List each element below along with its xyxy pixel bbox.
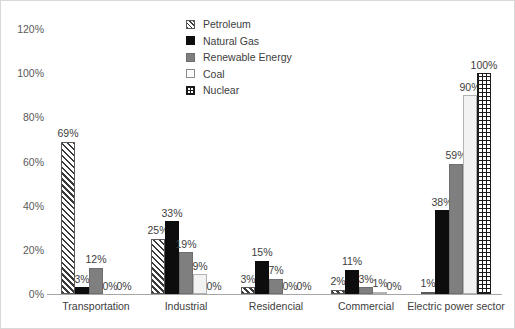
bar-value-label: 2% — [330, 276, 345, 287]
bar-group: 1%38%59%90%100%Electric power sector — [421, 29, 491, 294]
bar[interactable] — [241, 287, 255, 294]
bar-slot: 38% — [435, 29, 449, 294]
bar[interactable] — [421, 292, 435, 294]
legend-item[interactable]: Renewable Energy — [186, 49, 336, 66]
legend-item-label: Natural Gas — [203, 35, 259, 47]
bar[interactable] — [449, 164, 463, 294]
bar[interactable] — [89, 268, 103, 295]
y-axis: 120%100%80%60%40%20%0% — [0, 0, 44, 329]
bar[interactable] — [179, 252, 193, 294]
bar[interactable] — [193, 274, 207, 294]
bar-slot: 12% — [89, 29, 103, 294]
bar[interactable] — [269, 279, 283, 294]
bar-group-bars: 1%38%59%90%100% — [421, 29, 491, 294]
bar-slot: 3% — [359, 29, 373, 294]
legend-item[interactable]: Natural Gas — [186, 33, 336, 50]
bar[interactable] — [255, 261, 269, 294]
x-axis-category-label: Industrial — [165, 300, 208, 312]
chart-legend: PetroleumNatural GasRenewable EnergyCoal… — [186, 16, 336, 99]
y-axis-tick-label: 100% — [0, 67, 44, 79]
legend-item[interactable]: Nuclear — [186, 82, 336, 99]
bar[interactable] — [359, 287, 373, 294]
legend-item[interactable]: Petroleum — [186, 16, 336, 33]
bar[interactable] — [75, 287, 89, 294]
x-axis-category-label: Transportation — [62, 300, 129, 312]
bar-slot: 25% — [151, 29, 165, 294]
bar-value-label: 0% — [282, 281, 297, 292]
bar-value-label: 3% — [240, 274, 255, 285]
renewable-energy-swatch — [186, 53, 195, 62]
bar-value-label: 0% — [102, 281, 117, 292]
legend-item-label: Petroleum — [203, 18, 251, 30]
bar-slot: 1% — [421, 29, 435, 294]
bar[interactable] — [331, 290, 345, 294]
bar[interactable] — [435, 210, 449, 294]
bar-group-bars: 69%3%12%0%0% — [61, 29, 131, 294]
legend-item[interactable]: Coal — [186, 66, 336, 83]
bar[interactable] — [61, 142, 75, 294]
x-axis-category-label: Electric power sector — [407, 300, 504, 312]
bar-slot: 59% — [449, 29, 463, 294]
coal-swatch — [186, 69, 195, 78]
bar-value-label: 0% — [296, 281, 311, 292]
bar-value-label: 7% — [268, 265, 283, 276]
bar-slot: 0% — [387, 29, 401, 294]
petroleum-swatch — [186, 20, 195, 29]
y-axis-tick-label: 20% — [0, 244, 44, 256]
y-axis-tick-label: 80% — [0, 111, 44, 123]
bar-slot: 33% — [165, 29, 179, 294]
bar-value-label: 9% — [192, 261, 207, 272]
y-axis-tick-label: 0% — [0, 288, 44, 300]
y-axis-tick-label: 120% — [0, 23, 44, 35]
bar[interactable] — [463, 95, 477, 294]
bar-value-label: 1% — [420, 278, 435, 289]
x-axis-category-label: Residencial — [249, 300, 303, 312]
x-axis-category-label: Commercial — [338, 300, 394, 312]
bar-group: 69%3%12%0%0%Transportation — [61, 29, 131, 294]
bar-group-bars: 2%11%3%1%0% — [331, 29, 401, 294]
bar-value-label: 0% — [386, 281, 401, 292]
y-axis-tick-label: 60% — [0, 156, 44, 168]
nuclear-swatch — [186, 86, 195, 95]
bar-group: 2%11%3%1%0%Commercial — [331, 29, 401, 294]
x-axis-line — [47, 294, 502, 295]
bar-slot: 1% — [373, 29, 387, 294]
bar-value-label: 0% — [116, 281, 131, 292]
legend-item-label: Nuclear — [203, 84, 239, 96]
bar-value-label: 0% — [206, 281, 221, 292]
bar[interactable] — [165, 221, 179, 294]
bar[interactable] — [477, 73, 491, 294]
bar[interactable] — [373, 292, 387, 294]
bar-slot: 11% — [345, 29, 359, 294]
bar-value-label: 3% — [358, 274, 373, 285]
bar-slot: 0% — [117, 29, 131, 294]
bar-slot: 69% — [61, 29, 75, 294]
legend-item-label: Coal — [203, 68, 225, 80]
bar-value-label: 1% — [372, 278, 387, 289]
bar[interactable] — [151, 239, 165, 294]
bar-slot: 0% — [103, 29, 117, 294]
legend-item-label: Renewable Energy — [203, 51, 292, 63]
y-axis-tick-label: 40% — [0, 200, 44, 212]
bar[interactable] — [345, 270, 359, 294]
energy-source-share-bar-chart: 120%100%80%60%40%20%0% 69%3%12%0%0%Trans… — [0, 0, 515, 329]
bar-slot: 100% — [477, 29, 491, 294]
natural-gas-swatch — [186, 36, 195, 45]
bar-value-label: 3% — [74, 274, 89, 285]
bar-value-label: 100% — [471, 60, 498, 71]
